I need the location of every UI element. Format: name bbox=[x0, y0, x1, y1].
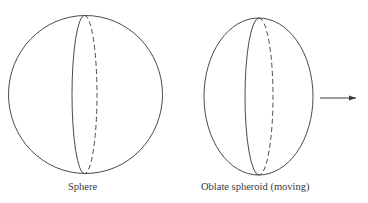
spheroid-outline bbox=[204, 18, 313, 175]
sphere-caption: Sphere bbox=[68, 182, 97, 193]
sphere-outline bbox=[9, 16, 163, 174]
spheroid-meridian-back bbox=[259, 18, 273, 175]
spheroid-meridian-front bbox=[245, 18, 259, 175]
spheroid-caption: Oblate spheroid (moving) bbox=[201, 182, 309, 193]
sphere-meridian-back bbox=[85, 16, 98, 174]
figure-canvas bbox=[0, 0, 368, 203]
spheroid-figure bbox=[204, 18, 313, 175]
figure: Sphere Oblate spheroid (moving) bbox=[0, 0, 368, 203]
sphere-figure bbox=[9, 16, 163, 174]
sphere-meridian-front bbox=[72, 16, 85, 174]
